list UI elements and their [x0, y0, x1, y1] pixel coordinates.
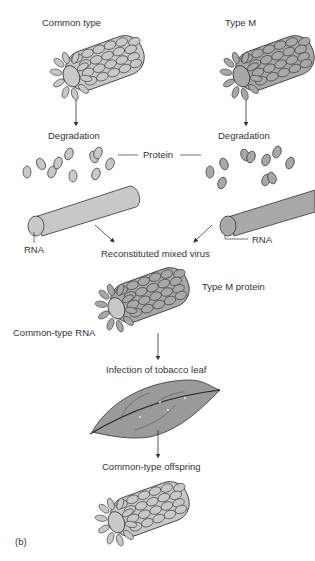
virus-type-m-icon [214, 26, 315, 105]
label-common-type-rna: Common-type RNA [13, 327, 95, 338]
virus-offspring-icon [89, 472, 197, 551]
label-degradation-left: Degradation [48, 130, 100, 141]
rna-cylinder-left-icon [28, 186, 140, 243]
label-panel-b: (b) [15, 536, 27, 547]
label-infection-tobacco-leaf: Infection of tobacco leaf [106, 364, 206, 375]
protein-subunits-left-icon [23, 146, 116, 182]
arrow-merge-right-icon [195, 225, 212, 241]
label-type-m-protein: Type M protein [202, 281, 265, 292]
virus-reconstituted-icon [89, 258, 197, 337]
label-protein: Protein [143, 149, 173, 160]
label-common-type: Common type [42, 17, 101, 28]
label-reconstituted-mixed-virus: Reconstituted mixed virus [101, 248, 210, 259]
label-rna-right: RNA [252, 234, 272, 245]
tobacco-leaf-icon [90, 380, 220, 438]
protein-subunits-right-icon [206, 145, 296, 190]
diagram-figure [0, 0, 315, 561]
rna-cylinder-right-icon [220, 190, 315, 239]
virus-common-type-icon [44, 26, 152, 105]
label-type-m: Type M [225, 17, 256, 28]
arrow-merge-left-icon [95, 225, 113, 241]
label-degradation-right: Degradation [218, 130, 270, 141]
label-rna-left: RNA [24, 244, 44, 255]
label-common-type-offspring: Common-type offspring [102, 461, 201, 472]
